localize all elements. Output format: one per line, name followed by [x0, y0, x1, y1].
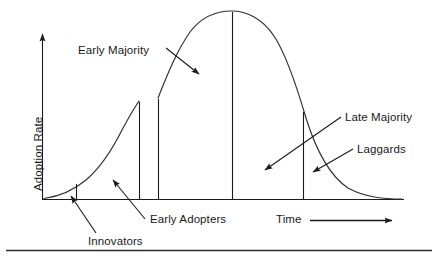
label-late-majority: Late Majority [345, 111, 412, 123]
adoption-lifecycle-figure: Adoption Rate Early Majority Late Majori… [0, 0, 438, 268]
adoption-curve-diagram [0, 0, 438, 268]
curve-left-tail [44, 101, 139, 199]
y-axis-label: Adoption Rate [32, 117, 44, 191]
leader-early-majority [166, 48, 199, 74]
leader-innovators [71, 196, 96, 233]
figure-caption-strip [0, 256, 438, 268]
label-laggards: Laggards [357, 143, 406, 155]
label-innovators: Innovators [88, 235, 143, 247]
label-early-majority: Early Majority [78, 44, 149, 56]
label-early-adopters: Early Adopters [150, 213, 226, 225]
x-axis-label: Time [276, 213, 302, 225]
curve-main-bell [158, 11, 402, 199]
